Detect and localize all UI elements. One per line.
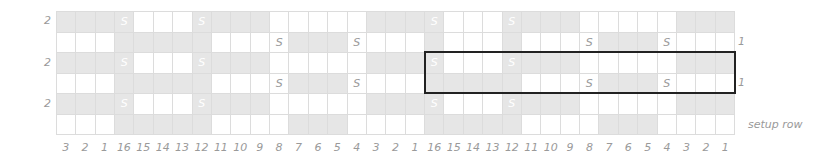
stitch-number-label: 11 [211, 141, 230, 154]
chart-cell [367, 94, 386, 115]
chart-cell [328, 74, 347, 95]
chart-cell [231, 74, 250, 95]
chart-cell [522, 74, 541, 95]
chart-cell [251, 33, 270, 54]
chart-cell [212, 53, 231, 74]
stitch-number-label: 10 [231, 141, 250, 154]
chart-cell [193, 115, 212, 136]
chart-cell [76, 53, 95, 74]
chart-cell [367, 33, 386, 54]
chart-cell: S [193, 12, 212, 33]
chart-cell [483, 94, 502, 115]
chart-cell [696, 12, 715, 33]
chart-cell [309, 53, 328, 74]
stitch-number-label: 2 [75, 141, 94, 154]
chart-cell [406, 115, 425, 136]
chart-cell [658, 53, 677, 74]
chart-cell [386, 33, 405, 54]
chart-cell [231, 94, 250, 115]
chart-cell [328, 12, 347, 33]
stitch-number-label: 3 [56, 141, 75, 154]
chart-cell [599, 33, 618, 54]
chart-cell [638, 74, 657, 95]
chart-cell [464, 33, 483, 54]
chart-cell [76, 115, 95, 136]
chart-cell [231, 33, 250, 54]
chart-cell [348, 12, 367, 33]
chart-cell [386, 74, 405, 95]
chart-cell: S [115, 53, 134, 74]
chart-cell [348, 53, 367, 74]
chart-cell [444, 94, 463, 115]
stitch-number-label: 8 [580, 141, 599, 154]
chart-cell [580, 115, 599, 136]
chart-cell [483, 74, 502, 95]
chart-cell [367, 74, 386, 95]
chart-cell [76, 94, 95, 115]
chart-cell [677, 33, 696, 54]
chart-cell: S [348, 33, 367, 54]
stitch-number-label: 2 [696, 141, 715, 154]
chart-cell [134, 115, 153, 136]
chart-cell [541, 94, 560, 115]
chart-cell [134, 53, 153, 74]
chart-cell [115, 33, 134, 54]
stitch-number-label: 14 [463, 141, 482, 154]
chart-cell [619, 53, 638, 74]
chart-cell [212, 12, 231, 33]
chart-cell [309, 33, 328, 54]
chart-cell [561, 12, 580, 33]
chart-cell [96, 115, 115, 136]
chart-cell [57, 53, 76, 74]
chart-cell [464, 115, 483, 136]
chart-cell [309, 74, 328, 95]
chart-cell [483, 33, 502, 54]
chart-cell [658, 115, 677, 136]
chart-cell [348, 94, 367, 115]
chart-cell [619, 12, 638, 33]
stitch-number-label: 12 [192, 141, 211, 154]
chart-cell: S [658, 74, 677, 95]
chart-cell [696, 33, 715, 54]
chart-cell [328, 115, 347, 136]
chart-cell [696, 115, 715, 136]
chart-cell [677, 94, 696, 115]
chart-cell [76, 12, 95, 33]
chart-cell [716, 33, 735, 54]
chart-cell [716, 12, 735, 33]
chart-cell [57, 115, 76, 136]
chart-cell: S [425, 12, 444, 33]
chart-cell [677, 12, 696, 33]
chart-cell [386, 53, 405, 74]
chart-cell [483, 12, 502, 33]
chart-cell [212, 115, 231, 136]
chart-cell: S [580, 74, 599, 95]
chart-cell [251, 53, 270, 74]
chart-cell [328, 53, 347, 74]
chart-cell [425, 74, 444, 95]
chart-cell [96, 53, 115, 74]
chart-cell [309, 12, 328, 33]
chart-cell [173, 53, 192, 74]
chart-cell [503, 115, 522, 136]
chart-cell [386, 94, 405, 115]
chart-cell [251, 12, 270, 33]
chart-cell [541, 12, 560, 33]
chart-cell [289, 33, 308, 54]
setup-row-label: setup row [748, 118, 803, 131]
row-number-label: 2 [44, 56, 51, 69]
chart-cell [76, 74, 95, 95]
chart-cell [716, 94, 735, 115]
chart-cell [541, 115, 560, 136]
row-number-label: 2 [44, 14, 51, 27]
chart-cell [134, 94, 153, 115]
chart-cell [599, 53, 618, 74]
chart-cell [406, 53, 425, 74]
stitch-number-label: 13 [483, 141, 502, 154]
chart-cell [677, 53, 696, 74]
chart-cell: S [503, 12, 522, 33]
stitch-number-label: 6 [619, 141, 638, 154]
chart-cell [251, 94, 270, 115]
chart-cell: S [658, 33, 677, 54]
chart-cell [76, 33, 95, 54]
